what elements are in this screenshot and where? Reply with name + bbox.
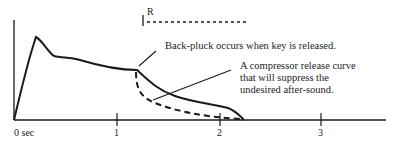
compressor-annotation-line-1: A compressor release curve: [240, 60, 356, 72]
envelope-diagram: 0 sec 1 2 3 R Back-pluck occurs when key…: [0, 0, 397, 146]
compressor-annotation-line-3: undesired after-sound.: [240, 84, 356, 96]
tick-label-3: 3: [318, 127, 323, 138]
compressor-annotation-line-2: that will suppress the: [240, 72, 356, 84]
tick-label-0: 0 sec: [14, 127, 34, 138]
tick-label-2: 2: [217, 127, 222, 138]
release-marker-label: R: [147, 6, 154, 17]
back-pluck-annotation: Back-pluck occurs when key is released.: [165, 40, 336, 52]
compressor-release-curve: [136, 72, 240, 119]
compressor-leader: [153, 70, 231, 100]
tick-label-1: 1: [114, 127, 119, 138]
back-pluck-leader: [139, 51, 156, 66]
compressor-annotation: A compressor release curve that will sup…: [240, 60, 356, 96]
